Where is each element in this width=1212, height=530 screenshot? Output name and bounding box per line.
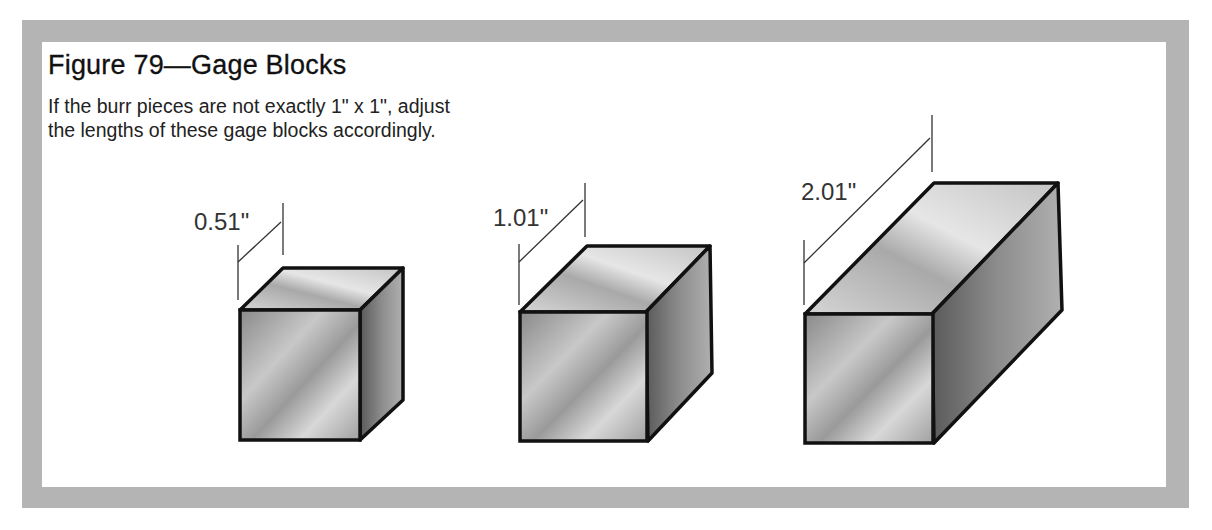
block-front-face — [240, 310, 360, 440]
dimension-label: 0.51" — [194, 208, 249, 235]
gage-blocks-illustration: 0.51" 1.01" 2.01" — [0, 0, 1212, 530]
gage-block-0-51: 0.51" — [194, 203, 403, 440]
dimension-label: 2.01" — [801, 178, 856, 205]
block-front-face — [805, 314, 933, 443]
gage-block-1-01: 1.01" — [493, 183, 712, 441]
dimension-label: 1.01" — [493, 204, 548, 231]
gage-block-2-01: 2.01" — [801, 115, 1062, 443]
block-front-face — [520, 312, 647, 441]
